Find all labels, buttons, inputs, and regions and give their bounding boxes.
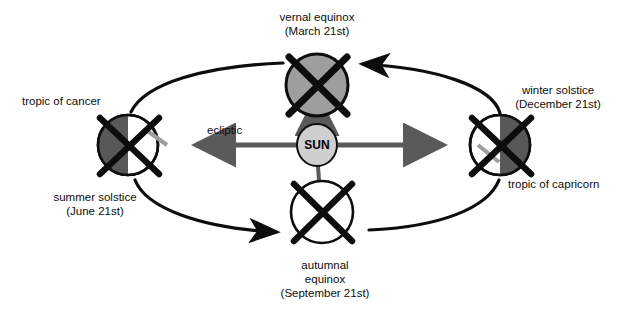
label-ecliptic: ecliptic	[207, 123, 242, 137]
sun-label: SUN	[304, 138, 329, 152]
planet-winter-solstice[interactable]	[470, 115, 531, 175]
seasons-diagram: SUN vernal equinox (March 21st) summer s…	[0, 0, 629, 320]
label-autumnal-equinox-line3: (September 21st)	[245, 286, 405, 300]
label-autumnal-equinox-line1: autumnal	[245, 258, 405, 272]
label-winter-solstice: winter solstice (December 21st)	[490, 83, 626, 111]
planet-summer-solstice[interactable]	[98, 115, 167, 175]
label-tropic-of-capricorn: tropic of capricorn	[508, 177, 599, 191]
label-summer-solstice-line1: summer solstice	[15, 190, 175, 204]
label-summer-solstice-line2: (June 21st)	[15, 204, 175, 218]
label-vernal-equinox-line1: vernal equinox	[232, 10, 402, 24]
label-summer-solstice: summer solstice (June 21st)	[15, 190, 175, 218]
label-autumnal-equinox: autumnal equinox (September 21st)	[245, 258, 405, 300]
label-tropic-of-cancer: tropic of cancer	[22, 94, 101, 108]
label-winter-solstice-line2: (December 21st)	[490, 97, 626, 111]
planet-vernal-equinox[interactable]	[286, 54, 348, 116]
label-vernal-equinox: vernal equinox (March 21st)	[232, 10, 402, 38]
orbit-arc-top-left	[131, 63, 283, 112]
orbit-arc-top-right	[363, 64, 500, 113]
planet-autumnal-equinox[interactable]	[291, 181, 353, 243]
sun-body[interactable]: SUN	[297, 124, 337, 166]
label-winter-solstice-line1: winter solstice	[490, 83, 626, 97]
orbit-arc-bottom-right	[369, 180, 499, 230]
label-autumnal-equinox-line2: equinox	[245, 272, 405, 286]
label-vernal-equinox-line2: (March 21st)	[232, 24, 402, 38]
